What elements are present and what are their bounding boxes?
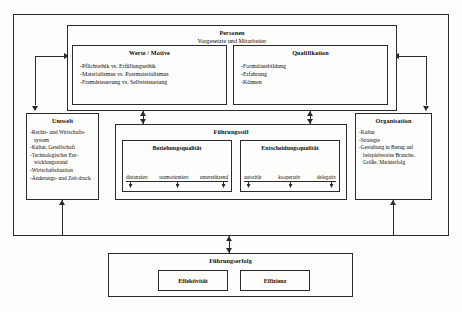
qualifikation-item: -Formalausbildung <box>241 62 387 70</box>
scale-label: unterstützend <box>200 174 228 181</box>
organisation-bottom-connector <box>393 200 394 236</box>
scale-label: distanziert <box>126 174 148 181</box>
beziehungsqualitaet-scale: distanziert teamorientiert unterstützend <box>126 174 228 187</box>
organisation-bottom-arrow <box>390 200 396 205</box>
organisation-item: -Kultur <box>359 129 428 137</box>
scale-label: delegativ <box>317 174 336 181</box>
beziehungsqualitaet-axis <box>126 181 228 187</box>
organisation-item: -Gestaltung in Bezug auf beispielsweise … <box>359 144 428 167</box>
werte-motive-list: -Pflichtethik vs. Erfüllungsethik -Mater… <box>73 57 226 87</box>
scale-tick <box>248 182 249 187</box>
fuehrungserfolg-box: Führungserfolg <box>108 253 353 297</box>
umwelt-item: -Änderungs- und Zeit-druck <box>30 175 95 183</box>
right-loop-arrow-into-organisation <box>423 106 429 111</box>
entscheidungsqualitaet-axis <box>244 181 336 187</box>
scale-tick <box>331 182 332 187</box>
erfolg-arrow-up <box>226 236 232 241</box>
werte-motive-title: Werte / Motive <box>73 46 226 57</box>
beziehungsqualitaet-box: Beziehungsqualität distanziert teamorien… <box>122 140 232 192</box>
effizienz-box: Effizienz <box>240 270 310 291</box>
scale-tick <box>177 182 178 187</box>
qualifikation-item: -Können <box>241 78 387 86</box>
werte-motive-item: -Materialismus vs. Postmaterialismus <box>80 70 226 78</box>
entscheidungsqualitaet-scale: autoritär kooperativ delegativ <box>244 174 336 187</box>
umwelt-title: Umwelt <box>27 114 98 125</box>
umwelt-item: -Kultur, Gesellschaft <box>30 144 95 152</box>
qualifikation-title: Qualifikation <box>234 46 387 57</box>
effizienz-label: Effizienz <box>241 271 309 292</box>
effektivitaet-box: Effektivität <box>158 270 228 291</box>
organisation-item: -Strategie <box>359 137 428 145</box>
umwelt-box: Umwelt -Rechts- und Wirtschafts-system -… <box>26 113 99 200</box>
scale-tick <box>223 182 224 187</box>
umwelt-list: -Rechts- und Wirtschafts-system -Kultur,… <box>27 125 98 182</box>
qualifikation-box: Qualifikation -Formalausbildung -Erfahru… <box>233 45 388 105</box>
umwelt-item: -Rechts- und Wirtschafts-system <box>30 129 95 144</box>
umwelt-bottom-connector <box>62 200 63 236</box>
umwelt-bottom-arrow <box>59 200 65 205</box>
left-loop-horizontal <box>35 56 67 57</box>
scale-tick <box>130 182 131 187</box>
connector-right-arrow-up <box>307 111 313 116</box>
umwelt-item: -Technologischer Ent-wicklungsstand <box>30 152 95 167</box>
effektivitaet-label: Effektivität <box>159 271 227 292</box>
left-loop-vertical <box>35 56 36 105</box>
scale-label: teamorientiert <box>159 174 188 181</box>
scale-label: kooperativ <box>278 174 300 181</box>
right-loop-horizontal <box>397 56 427 57</box>
entscheidungsqualitaet-title: Entscheidungsqualität <box>241 141 339 152</box>
entscheidungsqualitaet-scale-labels: autoritär kooperativ delegativ <box>244 174 336 181</box>
beziehungsqualitaet-scale-labels: distanziert teamorientiert unterstützend <box>126 174 228 181</box>
left-loop-arrow-into-umwelt <box>32 106 38 111</box>
qualifikation-list: -Formalausbildung -Erfahrung -Können <box>234 57 387 87</box>
right-loop-vertical <box>426 56 427 105</box>
fuehrungsstil-title: Führungsstil <box>116 125 346 136</box>
organisation-box: Organisation -Kultur -Strategie -Gestalt… <box>355 113 432 200</box>
werte-motive-box: Werte / Motive -Pflichtethik vs. Erfüllu… <box>72 45 227 105</box>
werte-motive-item: -Fremdsteuerung vs. Selbststeuerung <box>80 78 226 86</box>
fuehrungserfolg-title: Führungserfolg <box>109 254 352 265</box>
qualifikation-item: -Erfahrung <box>241 70 387 78</box>
umwelt-item: -Wirtschaftsituation <box>30 167 95 175</box>
connector-left-arrow-up <box>140 111 146 116</box>
werte-motive-item: -Pflichtethik vs. Erfüllungsethik <box>80 62 226 70</box>
scale-label: autoritär <box>244 174 262 181</box>
scale-tick <box>290 182 291 187</box>
organisation-title: Organisation <box>356 114 431 125</box>
diagram-canvas: Personen Vorgesetzte und Mitarbeiter Wer… <box>0 0 462 312</box>
personen-title: Personen <box>68 26 396 37</box>
beziehungsqualitaet-title: Beziehungsqualität <box>123 141 231 152</box>
entscheidungsqualitaet-box: Entscheidungsqualität autoritär kooperat… <box>240 140 340 192</box>
personen-subtitle: Vorgesetzte und Mitarbeiter <box>68 37 396 45</box>
organisation-list: -Kultur -Strategie -Gestaltung in Bezug … <box>356 125 431 167</box>
